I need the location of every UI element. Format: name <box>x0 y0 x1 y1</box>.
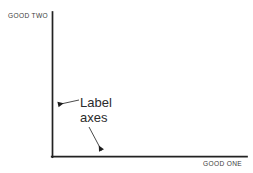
x-axis-caption: GOOD ONE <box>203 160 242 168</box>
pointer-to-x-axis <box>89 127 102 151</box>
diagram-canvas: GOOD TWO GOOD ONE Label axes <box>0 0 253 173</box>
annotation-line-1: Label <box>80 96 112 111</box>
annotation-label: Label axes <box>80 96 112 125</box>
pointer-to-y-axis <box>58 100 79 105</box>
y-axis-caption: GOOD TWO <box>8 12 48 20</box>
annotation-line-2: axes <box>80 111 112 126</box>
axes-diagram <box>0 0 253 173</box>
